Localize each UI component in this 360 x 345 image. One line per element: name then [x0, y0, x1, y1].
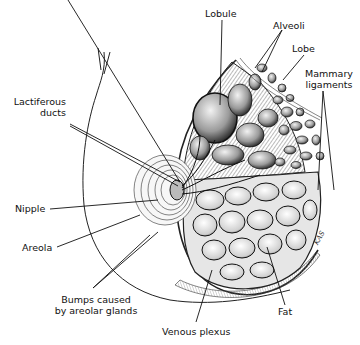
areola [134, 155, 196, 225]
label-bumps-line1: Bumps caused [46, 294, 146, 305]
label-areola: Areola [22, 242, 52, 253]
breast-anatomy-diagram: Lobule Alveoli Lobe Mammary ligaments La… [0, 0, 360, 345]
label-fat: Fat [278, 306, 292, 317]
label-mammary-ligaments: Mammary ligaments [298, 68, 360, 90]
label-alveoli: Alveoli [273, 20, 305, 31]
label-mammary-ligaments-line2: ligaments [298, 79, 360, 90]
label-lobe: Lobe [292, 43, 315, 54]
label-lactiferous-ducts: Lactiferous ducts [8, 96, 66, 118]
label-lobule: Lobule [205, 8, 236, 19]
label-lactiferous-ducts-line2: ducts [8, 107, 66, 118]
label-bumps-line2: by areolar glands [46, 305, 146, 316]
label-mammary-ligaments-line1: Mammary [298, 68, 360, 79]
label-nipple: Nipple [15, 203, 45, 214]
label-lactiferous-ducts-line1: Lactiferous [8, 96, 66, 107]
label-bumps-areolar-glands: Bumps caused by areolar glands [46, 294, 146, 316]
label-venous-plexus: Venous plexus [162, 326, 230, 337]
